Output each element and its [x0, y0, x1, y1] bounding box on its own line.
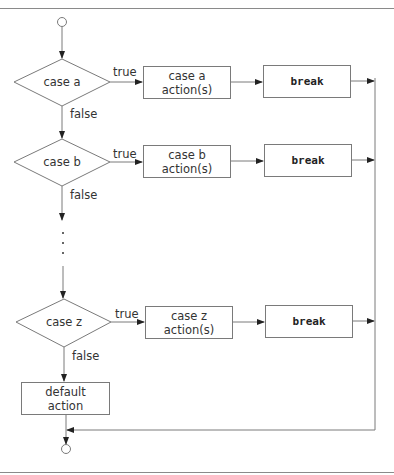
- true-label-a: true: [113, 65, 137, 79]
- false-label-a: false: [70, 107, 97, 121]
- action-box-a: case a action(s): [143, 66, 231, 99]
- decision-label-a: case a: [14, 75, 110, 89]
- false-label-z: false: [72, 349, 99, 363]
- action-box-b: case b action(s): [143, 145, 231, 178]
- decision-label-z: case z: [16, 315, 112, 329]
- ellipsis-dot: [62, 242, 64, 244]
- break-box-b: break: [264, 144, 352, 177]
- ellipsis-dot: [62, 232, 64, 234]
- true-label-z: true: [115, 307, 139, 321]
- start-node-icon: [58, 18, 67, 27]
- ellipsis-dot: [62, 252, 64, 254]
- action-box-z: case z action(s): [145, 306, 233, 339]
- decision-label-b: case b: [14, 155, 110, 169]
- false-label-b: false: [70, 188, 97, 202]
- break-box-a: break: [263, 65, 351, 98]
- break-box-z: break: [265, 305, 353, 338]
- true-label-b: true: [113, 147, 137, 161]
- end-node-icon: [62, 445, 71, 454]
- default-action-box: default action: [21, 382, 110, 415]
